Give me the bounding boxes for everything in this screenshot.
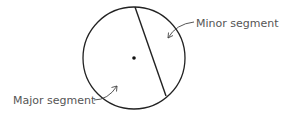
circle-segments-diagram: Minor segment Major segment [0, 0, 281, 119]
major-segment-label: Major segment [13, 94, 96, 107]
chord-line [135, 7, 166, 96]
center-point [132, 56, 136, 60]
minor-segment-label: Minor segment [196, 17, 279, 30]
minor-arrowhead-icon [168, 33, 173, 39]
